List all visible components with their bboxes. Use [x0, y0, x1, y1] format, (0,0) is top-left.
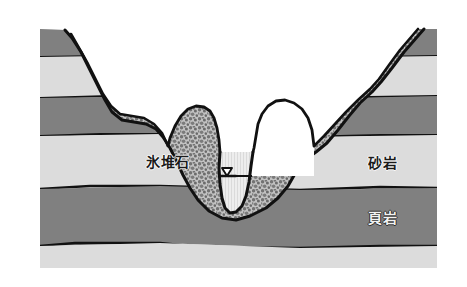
label-sandstone: 砂岩 — [368, 152, 397, 172]
contact-line-1 — [38, 55, 439, 58]
cross-section-drawing — [0, 0, 467, 287]
stratum-sandstone-4 — [38, 243, 439, 270]
label-shale: 頁岩 — [368, 207, 397, 227]
stratum-shale-1 — [38, 28, 439, 58]
bedrock-strata-group — [38, 28, 439, 270]
stratum-shale-2 — [38, 96, 439, 137]
geologic-cross-section-figure: 氷堆石 砂岩 頁岩 — [0, 0, 467, 287]
label-moraine: 氷堆石 — [146, 151, 190, 171]
